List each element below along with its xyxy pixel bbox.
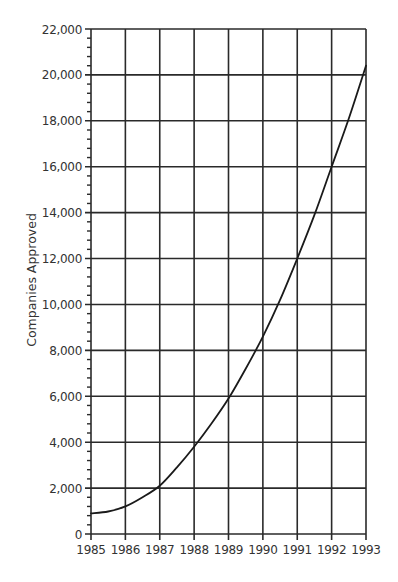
x-tick-label: 1988 xyxy=(179,543,208,557)
y-tick-label: 4,000 xyxy=(49,436,82,450)
x-tick-label: 1989 xyxy=(214,543,243,557)
x-tick-label: 1993 xyxy=(351,543,380,557)
y-tick-label: 20,000 xyxy=(42,68,82,82)
y-tick-label: 2,000 xyxy=(49,482,82,496)
x-tick-label: 1986 xyxy=(111,543,140,557)
y-tick-label: 18,000 xyxy=(42,114,82,128)
y-tick-label: 6,000 xyxy=(49,390,82,404)
x-tick-label: 1990 xyxy=(248,543,277,557)
y-tick-label: 16,000 xyxy=(42,160,82,174)
y-axis-tick-labels: 02,0004,0006,0008,00010,00012,00014,0001… xyxy=(42,23,82,542)
y-tick-label: 10,000 xyxy=(42,298,82,312)
y-tick-label: 8,000 xyxy=(49,344,82,358)
y-tick-label: 0 xyxy=(75,528,82,542)
line-chart: 02,0004,0006,0008,00010,00012,00014,0001… xyxy=(0,0,398,582)
y-tick-label: 12,000 xyxy=(42,252,82,266)
x-tick-label: 1985 xyxy=(76,543,105,557)
x-tick-label: 1987 xyxy=(145,543,174,557)
grid xyxy=(85,29,366,540)
x-tick-label: 1991 xyxy=(283,543,312,557)
y-tick-label: 22,000 xyxy=(42,23,82,37)
y-tick-label: 14,000 xyxy=(42,206,82,220)
x-axis-tick-labels: 198519861987198819891990199119921993 xyxy=(76,543,380,557)
x-tick-label: 1992 xyxy=(317,543,346,557)
y-axis-title: Companies Approved xyxy=(24,213,39,347)
